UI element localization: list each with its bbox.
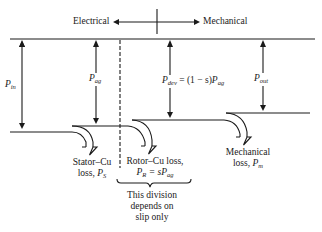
p-out-label: Pout xyxy=(254,73,268,86)
p-dev-label: Pdev = (1 − s)Pag xyxy=(162,75,224,88)
division-brace xyxy=(117,179,191,187)
rotor-loss-arrow xyxy=(128,120,156,154)
stator-loss-label: Stator–Cu loss, PS xyxy=(68,157,116,181)
electrical-label: Electrical xyxy=(73,16,109,27)
mechanical-loss-label: Mechanical loss, Pm xyxy=(220,147,276,171)
p-in-label: Pin xyxy=(5,79,16,92)
stator-loss-arrow xyxy=(72,126,97,155)
mechanical-loss-arrow xyxy=(224,113,251,145)
mechanical-label: Mechanical xyxy=(203,16,247,27)
rotor-loss-label: Rotor–Cu loss, PR = sPag xyxy=(122,156,188,180)
p-ag-label: Pag xyxy=(89,73,101,86)
division-note: This division depends on slip only xyxy=(124,190,180,223)
